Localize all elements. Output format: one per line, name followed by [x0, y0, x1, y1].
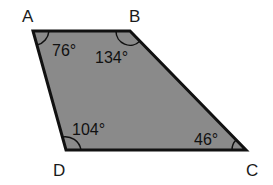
angle-label-a: 76°: [52, 42, 76, 59]
vertex-label-c: C: [246, 161, 258, 180]
angle-label-d: 104°: [72, 121, 105, 138]
vertex-label-d: D: [53, 161, 65, 180]
quadrilateral-diagram: A B C D 76° 134° 46° 104°: [0, 0, 273, 185]
angle-label-b: 134°: [95, 49, 128, 66]
vertex-label-b: B: [129, 7, 140, 26]
vertex-label-a: A: [22, 7, 34, 26]
angle-label-c: 46°: [194, 131, 218, 148]
